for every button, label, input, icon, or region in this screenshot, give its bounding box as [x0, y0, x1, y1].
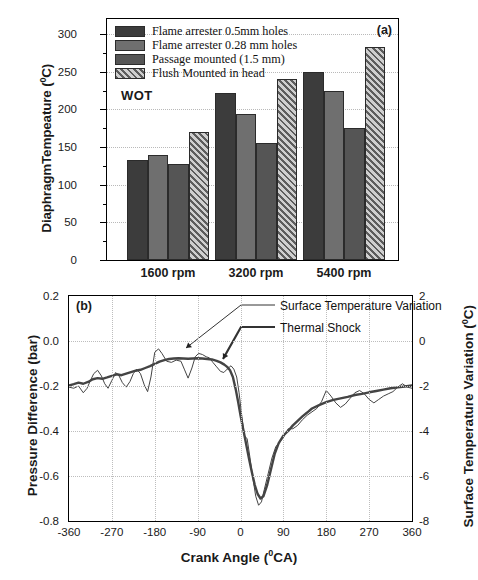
panel-a-legend-item: Flame arrester 0.28 mm holes	[115, 38, 297, 52]
gridline	[69, 476, 412, 477]
panel-a-bar	[324, 91, 345, 260]
panel-a-x-tick-label: 1600 rpm	[141, 266, 196, 280]
panel-b-x-axis-title: Crank Angle (0CA)	[0, 548, 478, 565]
panel-b-x-tick-label: 360	[402, 526, 421, 538]
panel-a-legend-label: Flame arrester 0.5mm holes	[152, 24, 288, 39]
panel-b-right-y-axis-title-text: Surface Temperature Variation (	[461, 324, 476, 527]
gridline	[69, 386, 412, 387]
legend-swatch-icon	[115, 68, 145, 79]
panel-b-x-tick-label: 90	[277, 526, 290, 538]
panel-a-x-tick-label: 5400 rpm	[317, 266, 372, 280]
panel-b-x-tick-label: -180	[143, 526, 166, 538]
panel-b-plot-area: (b) Surface Temperature VariationThermal…	[68, 295, 413, 522]
panel-a-bar	[344, 128, 365, 260]
panel-b-x-tick-label: -270	[100, 526, 123, 538]
panel-b-right-y-axis-title-tail: C)	[461, 305, 476, 319]
gridline	[69, 431, 412, 432]
panel-a-legend-label: Flame arrester 0.28 mm holes	[152, 38, 297, 53]
panel-a-legend-item: Flush Mounted in head	[115, 67, 297, 81]
panel-a-y-tick-label: 150	[41, 141, 77, 153]
panel-b-right-y-tick-label: -6	[419, 470, 453, 482]
panel-a-y-tick-label: 300	[41, 28, 77, 40]
legend-swatch-icon	[115, 40, 145, 51]
panel-b-x-tick-label: -90	[189, 526, 206, 538]
panel-b-left-y-tick-label: -0.6	[25, 470, 59, 482]
panel-a-y-tick-label: 200	[41, 103, 77, 115]
panel-b-right-y-tick-label: -8	[419, 515, 453, 527]
panel-b-label: (b)	[76, 299, 92, 313]
panel-b-x-tick-label: 270	[360, 526, 379, 538]
panel-a-bar	[365, 47, 386, 260]
panel-b-left-y-tick-label: -0.8	[25, 515, 59, 527]
panel-a-annotation-wot: WOT	[121, 88, 153, 103]
panel-b-left-y-tick-label: 0.2	[25, 290, 59, 302]
panel-a-bar	[256, 143, 277, 260]
panel-a-plot-area: (a) WOT Flame arrester 0.5mm holesFlame …	[106, 18, 399, 261]
panel-b-left-y-tick-label: -0.2	[25, 380, 59, 392]
gridline	[69, 341, 412, 342]
panel-b-right-y-axis-title-superscript: 0	[460, 319, 470, 324]
gridline	[241, 296, 242, 521]
panel-a-bar	[168, 164, 189, 260]
gridline	[369, 296, 370, 521]
callout-leader-line	[223, 327, 275, 359]
panel-b-callout-label: Surface Temperature Variation	[280, 299, 442, 313]
panel-a-bar	[148, 155, 169, 260]
panel-b-right-y-tick-label: -4	[419, 425, 453, 437]
panel-b-left-y-tick-label: 0.0	[25, 335, 59, 347]
callout-arrowhead-icon	[186, 342, 192, 348]
panel-a-legend-item: Passage mounted (1.5 mm)	[115, 52, 297, 66]
panel-a-bar	[277, 79, 298, 260]
gridline	[198, 296, 199, 521]
figure-root: DiaphragmTempeature (0C) 050100150200250…	[0, 0, 478, 580]
legend-swatch-icon	[115, 26, 145, 37]
legend-swatch-icon	[115, 54, 145, 65]
panel-a-y-tick-label: 250	[41, 66, 77, 78]
panel-b-line-chart: Pressure Difference (bar) Surface Temper…	[0, 290, 478, 580]
panel-b-callout-label: Thermal Shock	[280, 321, 361, 335]
panel-a-bar	[215, 93, 236, 260]
panel-b-x-tick-label: 180	[317, 526, 336, 538]
gridline	[155, 296, 156, 521]
panel-a-y-tick-label: 50	[41, 216, 77, 228]
panel-a-bar	[127, 160, 148, 260]
panel-a-bar	[236, 114, 257, 260]
panel-a-legend: Flame arrester 0.5mm holesFlame arrester…	[115, 24, 297, 81]
gridline	[112, 296, 113, 521]
panel-a-bar	[189, 132, 210, 260]
panel-a-legend-label: Passage mounted (1.5 mm)	[152, 52, 285, 67]
panel-b-right-y-tick-label: 0	[419, 335, 453, 347]
panel-a-x-tick-label: 3200 rpm	[229, 266, 284, 280]
panel-a-y-tick-label: 0	[41, 254, 77, 266]
panel-b-left-y-tick-label: -0.4	[25, 425, 59, 437]
panel-a-y-axis-title-superscript: 0	[38, 78, 48, 83]
panel-a-bar-chart: DiaphragmTempeature (0C) 050100150200250…	[0, 0, 478, 290]
panel-b-x-axis-title-tail: CA)	[273, 550, 297, 565]
panel-a-legend-item: Flame arrester 0.5mm holes	[115, 24, 297, 38]
panel-b-right-y-tick-label: -2	[419, 380, 453, 392]
panel-b-x-tick-label: -360	[57, 526, 80, 538]
panel-a-label: (a)	[377, 23, 392, 37]
panel-a-y-tick-label: 100	[41, 179, 77, 191]
gridline	[107, 109, 398, 110]
panel-a-legend-label: Flush Mounted in head	[152, 66, 265, 81]
panel-b-right-y-axis-title: Surface Temperature Variation (0C)	[460, 291, 477, 541]
panel-b-x-axis-title-text: Crank Angle (	[181, 550, 268, 565]
panel-a-bar	[303, 72, 324, 260]
panel-b-x-tick-label: 0	[237, 526, 243, 538]
